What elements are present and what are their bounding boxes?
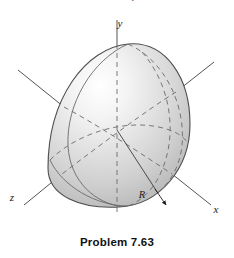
figure-caption: Problem 7.63 — [0, 236, 234, 248]
radius-label: R — [138, 189, 146, 200]
z-axis-label: z — [9, 191, 15, 203]
figure-root: determine the location of the semispheri… — [0, 0, 234, 258]
x-axis-label: x — [213, 203, 219, 215]
x-axis-negative-segment — [18, 70, 64, 107]
y-axis-label: y — [117, 17, 123, 29]
problem-figure-diagram: y x z R — [0, 0, 234, 258]
x-axis-positive-segment — [172, 174, 211, 205]
